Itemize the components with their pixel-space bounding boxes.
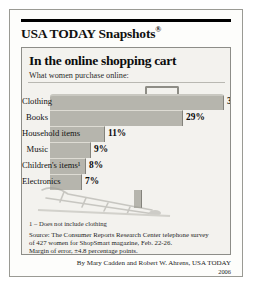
chart-row: Music 9% (22, 142, 230, 158)
byline-credit: By Mary Cadden and Robert W. Ahrens, USA… (21, 259, 231, 267)
masthead-brand-text: USA TODAY Snapshots (21, 26, 155, 41)
byline: By Mary Cadden and Robert W. Ahrens, USA… (21, 259, 231, 275)
chart-row: Household items 11% (22, 126, 230, 142)
source-line: of 427 women for ShopSmart magazine, Feb… (29, 239, 224, 247)
chart-panel: In the online shopping cart What women p… (21, 47, 231, 255)
chart-stage: Clothing 38% Books 29% Household items 1… (22, 84, 230, 219)
byline-year: 2006 (21, 268, 231, 275)
funnel-bars: Clothing 38% Books 29% Household items 1… (22, 94, 230, 190)
value-label-books: 29% (186, 112, 205, 122)
masthead-rule (21, 19, 231, 22)
category-label-childrens-items: Children's items¹ (22, 160, 230, 170)
usa-today-snapshot-figure: USA TODAY Snapshots® In the online shopp… (9, 9, 243, 277)
source-line: Margin of error, ±4.8 percentage points. (29, 247, 224, 255)
panel-header-divider (28, 82, 225, 83)
category-label-music: Music (22, 144, 230, 154)
source-block: Source: The Consumer Reports Research Ce… (29, 231, 224, 255)
panel-header: In the online shopping cart What women p… (29, 53, 224, 80)
registered-mark-icon: ® (155, 25, 161, 34)
source-line: Source: The Consumer Reports Research Ce… (29, 231, 224, 239)
category-label-clothing: Clothing (22, 96, 230, 106)
value-label-childrens-items: 8% (89, 160, 103, 170)
value-label-household-items: 11% (108, 128, 126, 138)
chart-row: Books 29% (22, 110, 230, 126)
value-label-clothing: 38% (227, 96, 231, 106)
footnotes: 1 – Does not include clothing Source: Th… (29, 220, 224, 255)
panel-subtitle: What women purchase online: (29, 71, 224, 80)
hand-truck-icon (34, 180, 174, 218)
page-title: In the online shopping cart (29, 53, 224, 69)
value-label-music: 9% (94, 144, 108, 154)
masthead: USA TODAY Snapshots® (21, 19, 231, 42)
footnote-mark: 1 – Does not include clothing (29, 220, 224, 227)
chart-row: Children's items¹ 8% (22, 158, 230, 174)
chart-row: Clothing 38% (22, 94, 230, 110)
masthead-brand: USA TODAY Snapshots® (21, 25, 231, 42)
